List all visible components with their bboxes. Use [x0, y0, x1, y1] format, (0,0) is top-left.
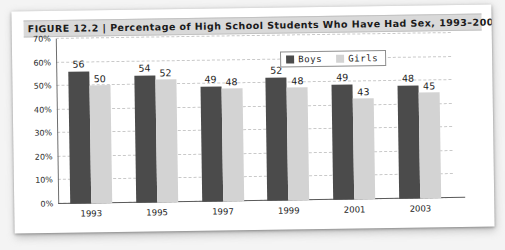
figure-card-inner: FIGURE 12.2 | Percentage of High School …: [11, 4, 494, 233]
bar-value-label: 45: [423, 80, 435, 91]
legend-item-boys: Boys: [286, 54, 322, 65]
bar-group: 48452003: [385, 33, 453, 199]
bar-boys[interactable]: 56: [68, 71, 91, 203]
legend-label-girls: Girls: [348, 53, 378, 63]
x-tick-label: 1997: [212, 206, 234, 216]
figure-card: FIGURE 12.2 | Percentage of High School …: [11, 4, 494, 233]
bar-boys[interactable]: 54: [134, 75, 157, 203]
bar-value-label: 54: [138, 62, 150, 73]
bar-girls[interactable]: 48: [287, 87, 310, 200]
x-tick-label: 1999: [278, 205, 300, 215]
bar-value-label: 48: [291, 75, 303, 86]
y-tick-label: 70%: [33, 34, 51, 43]
x-tick-label: 2003: [410, 203, 432, 213]
bar-value-label: 43: [357, 86, 369, 97]
chart-legend: Boys Girls: [280, 50, 386, 68]
legend-item-girls: Girls: [336, 53, 378, 64]
bar-boys[interactable]: 49: [332, 84, 355, 200]
legend-label-boys: Boys: [298, 54, 322, 64]
y-tick-label: 60%: [33, 58, 51, 67]
bar-groups: 5650199354521995494819975248199949432001…: [56, 33, 453, 204]
x-tick-label: 1993: [80, 208, 102, 218]
bar-girls[interactable]: 52: [155, 80, 178, 203]
y-tick-label: 30%: [34, 129, 52, 138]
bar-girls[interactable]: 50: [89, 85, 112, 203]
x-tick-label: 2001: [344, 204, 366, 214]
bar-group: 56501993: [56, 38, 124, 204]
bar-value-label: 49: [336, 71, 348, 82]
y-tick-label: 40%: [34, 105, 52, 114]
chart-plot-area: 0%10%20%30%40%50%60%70% 5650199354521995…: [56, 33, 453, 204]
y-tick-label: 0%: [40, 199, 53, 208]
bar-value-label: 50: [94, 73, 106, 84]
x-tick-label: 1995: [146, 207, 168, 217]
y-tick-label: 10%: [35, 176, 53, 185]
bar-value-label: 52: [159, 68, 171, 79]
bar-group: 49481997: [187, 36, 255, 202]
legend-swatch-girls: [336, 55, 344, 63]
bar-girls[interactable]: 48: [221, 88, 244, 201]
legend-swatch-boys: [286, 55, 294, 63]
y-tick-label: 50%: [34, 82, 52, 91]
bar-boys[interactable]: 52: [266, 78, 289, 201]
bar-value-label: 49: [204, 73, 216, 84]
bar-group: 54521995: [122, 37, 190, 203]
bar-girls[interactable]: 43: [353, 98, 376, 200]
bar-girls[interactable]: 45: [419, 92, 442, 198]
y-tick-label: 20%: [35, 152, 53, 161]
bar-boys[interactable]: 48: [398, 85, 421, 198]
bar-value-label: 48: [225, 76, 237, 87]
bar-boys[interactable]: 49: [200, 86, 223, 202]
bar-value-label: 48: [402, 72, 414, 83]
bar-value-label: 56: [72, 58, 84, 69]
